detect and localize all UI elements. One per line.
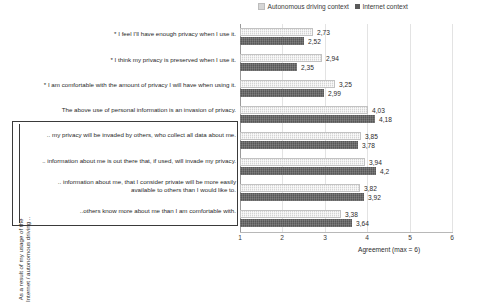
x-tick-1: 1 — [238, 234, 242, 241]
bar-internet-1 — [240, 63, 297, 71]
chart-legend: Autonomous driving context Internet cont… — [258, 3, 408, 10]
legend-swatch-dark-icon — [355, 4, 360, 9]
bar-group-2: 3,25 2,99 — [240, 80, 452, 98]
bar-group-3: 4,03 4,18 — [240, 106, 452, 124]
bar-group-6: 3,82 3,92 — [240, 184, 452, 202]
bar-value-internet-6: 3,92 — [368, 194, 381, 201]
bar-value-internet-0: 2,52 — [308, 38, 321, 45]
bar-value-autonomous-7: 3,38 — [345, 211, 358, 218]
bar-value-autonomous-2: 3,25 — [339, 81, 352, 88]
y-axis-group-label: As a result of my usage of the Internet … — [17, 213, 32, 305]
x-tick-4: 4 — [365, 234, 369, 241]
bar-row-internet-5: 4,2 — [240, 167, 452, 175]
bar-internet-4 — [240, 141, 358, 149]
bar-value-autonomous-0: 2,73 — [317, 29, 330, 36]
bar-group-0: 2,73 2,52 — [240, 28, 452, 46]
bar-row-internet-7: 3,64 — [240, 219, 452, 227]
x-tick-2: 2 — [280, 234, 284, 241]
bars-layer: 2,73 2,52 2,94 2,35 3,25 — [240, 24, 452, 232]
bar-internet-5 — [240, 167, 376, 175]
bar-row-internet-2: 2,99 — [240, 89, 452, 97]
category-label-2: * I am comfortable with the amount of pr… — [21, 81, 236, 89]
x-tick-3: 3 — [323, 234, 327, 241]
x-axis-label: Agreement (max = 6) — [358, 246, 420, 253]
bar-row-autonomous-3: 4,03 — [240, 106, 452, 114]
bar-internet-0 — [240, 37, 304, 45]
bar-value-internet-3: 4,18 — [379, 116, 392, 123]
bar-autonomous-3 — [240, 106, 368, 114]
legend-item-autonomous-driving: Autonomous driving context — [258, 3, 349, 10]
x-tick-5: 5 — [408, 234, 412, 241]
category-label-1: * I think my privacy is preserved when I… — [46, 56, 236, 64]
bar-value-autonomous-6: 3,82 — [364, 185, 377, 192]
category-label-0: * I feel I'll have enough privacy when I… — [46, 30, 236, 38]
bar-internet-3 — [240, 115, 375, 123]
bar-autonomous-5 — [240, 158, 365, 166]
bar-autonomous-6 — [240, 184, 360, 192]
bar-value-autonomous-4: 3,85 — [365, 133, 378, 140]
legend-item-internet: Internet context — [355, 3, 408, 10]
bar-row-internet-3: 4,18 — [240, 115, 452, 123]
bar-row-autonomous-6: 3,82 — [240, 184, 452, 192]
bar-autonomous-1 — [240, 54, 322, 62]
bar-row-internet-1: 2,35 — [240, 63, 452, 71]
bar-group-5: 3,94 4,2 — [240, 158, 452, 176]
bar-autonomous-7 — [240, 210, 341, 218]
bar-row-autonomous-0: 2,73 — [240, 28, 452, 36]
bar-autonomous-0 — [240, 28, 313, 36]
bar-value-internet-1: 2,35 — [301, 64, 314, 71]
bar-value-internet-4: 3,78 — [362, 142, 375, 149]
bar-row-internet-6: 3,92 — [240, 193, 452, 201]
bar-autonomous-4 — [240, 132, 361, 140]
bar-group-4: 3,85 3,78 — [240, 132, 452, 150]
bar-internet-7 — [240, 219, 352, 227]
bar-row-autonomous-4: 3,85 — [240, 132, 452, 140]
bar-autonomous-2 — [240, 80, 335, 88]
category-group-bracket — [12, 121, 238, 226]
bar-row-internet-4: 3,78 — [240, 141, 452, 149]
bar-value-internet-5: 4,2 — [380, 168, 389, 175]
bar-group-1: 2,94 2,35 — [240, 54, 452, 72]
category-label-3: The above use of personal information is… — [31, 106, 236, 114]
bar-row-autonomous-2: 3,25 — [240, 80, 452, 88]
bar-value-autonomous-1: 2,94 — [326, 55, 339, 62]
bar-row-internet-0: 2,52 — [240, 37, 452, 45]
bar-value-internet-2: 2,99 — [328, 90, 341, 97]
bar-group-7: 3,38 3,64 — [240, 210, 452, 228]
gridline-6 — [452, 24, 453, 232]
bar-internet-2 — [240, 89, 324, 97]
bar-row-autonomous-7: 3,38 — [240, 210, 452, 218]
y-axis-group-label-wrap: As a result of my usage of the Internet … — [13, 124, 27, 224]
bar-row-autonomous-5: 3,94 — [240, 158, 452, 166]
x-axis-tick-labels: 1 2 3 4 5 6 — [240, 234, 453, 246]
x-axis-line — [240, 232, 453, 233]
bar-row-autonomous-1: 2,94 — [240, 54, 452, 62]
legend-label-internet: Internet context — [362, 3, 407, 10]
legend-swatch-light-icon — [258, 3, 265, 10]
bar-internet-6 — [240, 193, 364, 201]
bar-value-autonomous-3: 4,03 — [372, 107, 385, 114]
legend-label-autonomous-driving: Autonomous driving context — [268, 3, 349, 10]
bar-value-autonomous-5: 3,94 — [369, 159, 382, 166]
bar-value-internet-7: 3,64 — [356, 220, 369, 227]
x-tick-6: 6 — [450, 234, 454, 241]
